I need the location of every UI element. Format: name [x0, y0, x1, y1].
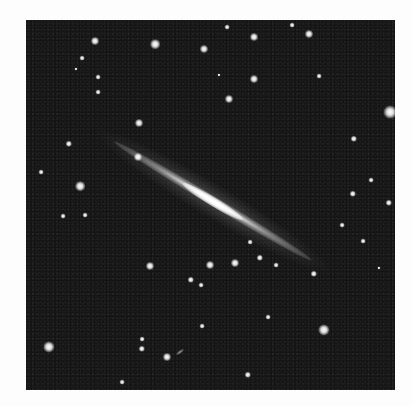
star — [305, 30, 313, 38]
star — [140, 337, 145, 342]
star — [146, 262, 154, 270]
star — [120, 380, 125, 385]
star — [225, 25, 230, 30]
star — [134, 153, 142, 161]
star — [83, 213, 88, 218]
star — [384, 106, 395, 119]
galaxy-image — [26, 20, 395, 390]
star — [80, 56, 85, 61]
star — [61, 214, 66, 219]
star — [274, 263, 279, 268]
star — [231, 259, 239, 267]
star — [75, 181, 85, 191]
star — [250, 75, 258, 83]
star — [225, 95, 233, 103]
star — [206, 261, 214, 269]
star — [163, 353, 171, 361]
star — [250, 33, 258, 41]
star — [340, 223, 345, 228]
star — [200, 324, 205, 329]
star — [200, 45, 208, 53]
star — [369, 178, 374, 183]
star — [317, 74, 322, 79]
star — [91, 37, 99, 45]
star — [361, 239, 366, 244]
star — [135, 119, 143, 127]
star — [39, 170, 44, 175]
star — [150, 39, 160, 49]
star — [266, 315, 271, 320]
star — [248, 240, 253, 245]
star — [199, 283, 204, 288]
star — [96, 75, 101, 80]
star — [96, 90, 101, 95]
star — [290, 23, 295, 28]
